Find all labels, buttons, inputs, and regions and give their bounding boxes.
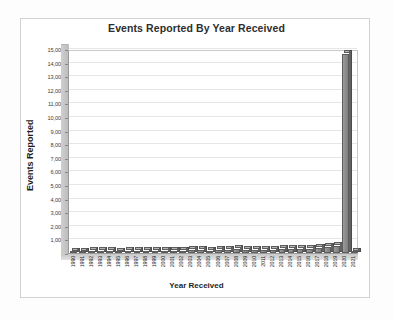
bar-top-face <box>316 244 323 247</box>
bar-1995 <box>115 248 122 253</box>
bar-top-face <box>144 247 151 250</box>
bar-front-face <box>79 251 86 253</box>
bar-top-face <box>344 50 351 53</box>
bar-2009 <box>242 246 249 253</box>
bar-2020 <box>342 50 349 253</box>
bar-front-face <box>297 249 304 253</box>
y-axis-tick-mark <box>65 77 68 78</box>
x-axis-tick-label: 2008 <box>233 256 239 267</box>
bar-1996 <box>125 247 132 253</box>
bar-series <box>69 51 357 253</box>
bar-2021 <box>351 248 358 253</box>
bar-side-face <box>349 50 352 251</box>
x-axis-tick-label: 1999 <box>151 256 157 267</box>
bar-front-face <box>224 250 231 253</box>
bar-front-face <box>197 250 204 253</box>
bar-1998 <box>143 247 150 253</box>
x-axis-tick-label: 2015 <box>296 256 302 267</box>
bar-2018 <box>324 243 331 253</box>
y-axis-tick-mark <box>65 254 68 255</box>
bar-top-face <box>135 247 142 250</box>
bar-top-face <box>72 248 79 251</box>
x-axis-tick-label: 2011 <box>260 256 266 267</box>
y-axis-tick-label: 11,000 <box>34 101 64 107</box>
bar-2002 <box>179 247 186 253</box>
y-axis-tick-mark <box>65 186 68 187</box>
bar-2000 <box>161 247 168 253</box>
bar-1992 <box>88 247 95 253</box>
bar-front-face <box>179 251 186 253</box>
bar-2011 <box>260 246 267 253</box>
bar-top-face <box>289 245 296 248</box>
x-axis-tick-label: 2012 <box>269 256 275 267</box>
bar-2019 <box>333 242 340 253</box>
y-axis-tick-mark <box>65 240 68 241</box>
bar-2001 <box>170 247 177 253</box>
y-axis-tick-mark <box>65 91 68 92</box>
bar-front-face <box>242 250 249 253</box>
bar-2010 <box>251 246 258 253</box>
bar-top-face <box>162 247 169 250</box>
x-axis-tick-label: 2018 <box>323 256 329 267</box>
bar-1999 <box>152 247 159 253</box>
bar-front-face <box>251 250 258 253</box>
x-axis-tick-label: 2009 <box>242 256 248 267</box>
x-axis-tick-label: 1998 <box>142 256 148 267</box>
bar-front-face <box>115 251 122 253</box>
bar-1997 <box>134 247 141 253</box>
y-axis-tick-label: 3,000 <box>34 210 64 216</box>
bar-2016 <box>306 245 313 253</box>
x-axis-tick-label: 1995 <box>115 256 121 267</box>
bar-front-face <box>215 250 222 253</box>
bar-front-face <box>270 250 277 253</box>
y-axis-tick-label: 9,000 <box>34 129 64 135</box>
plot-left-wall <box>61 44 68 255</box>
y-axis-tick-mark <box>65 172 68 173</box>
bar-front-face <box>342 54 349 253</box>
y-axis-tick-label: 2,000 <box>34 224 64 230</box>
x-axis-tick-label: 2006 <box>215 256 221 267</box>
bar-top-face <box>99 247 106 250</box>
bar-front-face <box>351 251 358 253</box>
bar-top-face <box>153 247 160 250</box>
bar-front-face <box>306 249 313 253</box>
y-axis-tick-mark <box>65 118 68 119</box>
bar-top-face <box>244 246 251 249</box>
bar-top-face <box>208 247 215 250</box>
bar-front-face <box>288 249 295 253</box>
y-axis-tick-mark <box>65 213 68 214</box>
y-axis-tick-mark <box>65 200 68 201</box>
bar-front-face <box>188 250 195 253</box>
y-axis-tick-mark <box>65 159 68 160</box>
bar-top-face <box>81 248 88 251</box>
x-axis-tick-label: 2000 <box>160 256 166 267</box>
bar-2007 <box>224 246 231 253</box>
y-axis-tick-label: 7,000 <box>34 156 64 162</box>
bar-1991 <box>79 248 86 253</box>
bar-front-face <box>324 247 331 253</box>
x-axis-title: Year Received <box>0 281 393 290</box>
x-axis-tick-label: 1990 <box>70 256 76 267</box>
y-axis-tick-label: 10,000 <box>34 115 64 121</box>
x-axis-tick-label: 2016 <box>305 256 311 267</box>
bar-1993 <box>97 247 104 253</box>
bar-2006 <box>215 246 222 253</box>
x-axis-tick-label: 2003 <box>187 256 193 267</box>
y-axis-tick-labels: 01,0002,0003,0004,0005,0006,0007,0008,00… <box>30 50 64 254</box>
bar-2014 <box>288 245 295 253</box>
x-axis-tick-label: 2005 <box>205 256 211 267</box>
x-axis-tick-labels: 1990199119921993199419951996199719981999… <box>68 256 358 282</box>
bar-front-face <box>88 251 95 253</box>
y-axis-tick-label: 0 <box>34 251 64 257</box>
y-axis-tick-mark <box>65 132 68 133</box>
x-axis-tick-label: 2004 <box>196 256 202 267</box>
y-axis-tick-label: 4,000 <box>34 197 64 203</box>
bar-front-face <box>333 246 340 253</box>
bar-top-face <box>189 246 196 249</box>
x-axis-tick-label: 2019 <box>332 256 338 267</box>
bar-top-face <box>117 248 124 251</box>
bar-front-face <box>279 249 286 253</box>
bar-top-face <box>235 245 242 248</box>
x-axis-tick-label: 2021 <box>350 256 356 267</box>
chart-page: Events Reported By Year Received Events … <box>0 0 393 320</box>
